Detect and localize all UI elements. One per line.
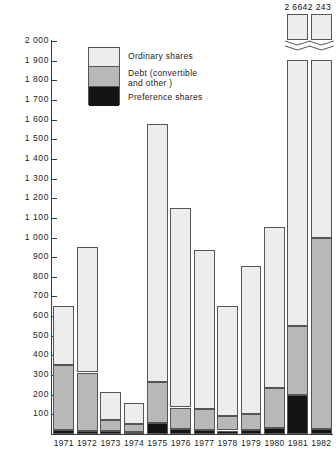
bar-segment [100,431,121,434]
bar-segment [53,430,74,434]
axis-break-mark [285,38,310,52]
bar-segment [217,306,238,416]
legend-label-preference: Preference shares [128,92,203,102]
bar-segment [124,403,145,424]
y-tick-label-1500: 1 500 [25,134,49,143]
x-tick-label-1971: 1971 [52,438,75,448]
y-tick-1200 [52,198,57,199]
legend-swatch-debt [89,67,119,87]
stacked-bar-chart: 1002003004005006007008009001 0001 1001 2… [0,0,336,451]
y-tick-2000 [52,41,57,42]
bar-segment [100,420,121,431]
x-tick-label-1973: 1973 [99,438,122,448]
bar-segment-broken-cap [311,14,332,40]
y-tick-label-1200: 1 200 [25,193,49,202]
x-tick-label-1977: 1977 [193,438,216,448]
bar-segment [194,250,215,409]
bar-segment [77,247,98,372]
bar-segment [264,227,285,388]
y-tick-label-1300: 1 300 [25,174,49,183]
y-tick-label-2000: 2 000 [25,36,49,45]
y-tick-label-1800: 1 800 [25,75,49,84]
bar-segment [194,409,215,430]
y-tick-1600 [52,120,57,121]
bar-segment [53,365,74,430]
x-tick-label-1972: 1972 [75,438,98,448]
y-tick-label-400: 400 [33,350,49,359]
bar-segment [311,60,332,238]
y-tick-label-1100: 1 100 [25,213,49,222]
y-tick-1100 [52,218,57,219]
bar-segment [124,424,145,432]
y-tick-label-700: 700 [33,291,49,300]
bar-segment [53,306,74,365]
axis-break-mark [309,38,334,52]
bar-segment [217,431,238,435]
x-tick-label-1981: 1981 [286,438,309,448]
y-tick-label-900: 900 [33,252,49,261]
legend-swatch-preference [89,87,119,106]
y-tick-1400 [52,159,57,160]
x-tick-label-1976: 1976 [169,438,192,448]
legend-swatch-ordinary [89,48,119,67]
y-tick-1000 [52,238,57,239]
y-tick-1500 [52,139,57,140]
x-tick-label-1980: 1980 [263,438,286,448]
bar-value-label-1981: 2 664 [284,2,307,12]
y-tick-label-100: 100 [33,409,49,418]
bar-segment [241,414,262,430]
bar-segment [287,60,308,326]
y-tick-label-500: 500 [33,331,49,340]
bar-value-label-1982: 2 243 [308,2,331,12]
bar-segment [77,431,98,435]
legend-swatch-stack [88,47,120,105]
y-tick-1300 [52,179,57,180]
bar-segment [147,382,168,423]
x-tick-label-1974: 1974 [122,438,145,448]
y-tick-900 [52,257,57,258]
bar-segment [217,416,238,431]
x-tick-label-1975: 1975 [146,438,169,448]
bar-segment [241,266,262,414]
y-tick-label-1400: 1 400 [25,154,49,163]
bar-segment [147,423,168,434]
bar-segment-broken-cap [287,14,308,40]
bar-segment [264,388,285,428]
bar-segment [287,395,308,434]
y-tick-label-200: 200 [33,390,49,399]
y-tick-1900 [52,61,57,62]
legend-label-ordinary: Ordinary shares [128,51,193,61]
y-tick-1700 [52,100,57,101]
y-tick-label-1700: 1 700 [25,95,49,104]
bar-segment [170,429,191,434]
bar-segment [77,373,98,431]
y-tick-label-1000: 1 000 [25,233,49,242]
bar-segment [264,428,285,434]
y-tick-label-600: 600 [33,311,49,320]
x-axis-line [51,434,333,435]
x-tick-label-1982: 1982 [310,438,333,448]
bar-segment [311,429,332,434]
bar-segment [170,408,191,430]
y-tick-800 [52,277,57,278]
bar-segment [170,208,191,407]
bar-segment [287,326,308,395]
y-tick-label-800: 800 [33,272,49,281]
legend-label-debt: Debt (convertible and other ) [128,68,197,88]
bar-segment [124,432,145,434]
bar-segment [241,430,262,434]
y-tick-label-300: 300 [33,370,49,379]
bar-segment [147,124,168,382]
y-tick-label-1600: 1 600 [25,115,49,124]
y-tick-700 [52,296,57,297]
bar-segment [100,392,121,421]
y-tick-label-1900: 1 900 [25,56,49,65]
bar-segment [194,430,215,434]
x-tick-label-1978: 1978 [216,438,239,448]
bar-segment [311,238,332,430]
y-tick-1800 [52,80,57,81]
x-tick-label-1979: 1979 [239,438,262,448]
chart-legend: Ordinary shares Debt (convertible and ot… [88,47,238,107]
